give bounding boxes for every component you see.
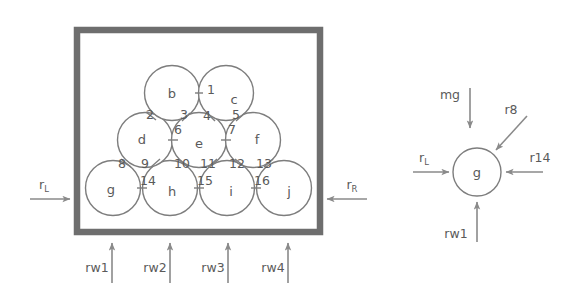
force-label-rw3: rw3 bbox=[201, 260, 224, 275]
force-label-rw1-fbd: rw1 bbox=[444, 226, 467, 241]
contact-number-8: 8 bbox=[118, 156, 126, 171]
contact-number-9: 9 bbox=[141, 156, 149, 171]
contact-number-15: 15 bbox=[197, 173, 213, 188]
disk-label-f: f bbox=[255, 132, 260, 147]
disk-label-c: c bbox=[230, 92, 237, 107]
disk-label-d: d bbox=[138, 132, 146, 147]
force-label-mg: mg bbox=[440, 87, 460, 102]
contact-number-10: 10 bbox=[174, 156, 190, 171]
contact-number-1: 1 bbox=[207, 82, 215, 97]
contact-number-12: 12 bbox=[229, 156, 245, 171]
force-label-rw2: rw2 bbox=[143, 260, 166, 275]
disk-label-h: h bbox=[168, 184, 176, 199]
disk-label-g: g bbox=[107, 182, 115, 197]
disk-label-j: j bbox=[286, 184, 291, 199]
contact-number-6: 6 bbox=[174, 122, 182, 137]
force-label-rR: rR bbox=[346, 177, 357, 194]
contact-number-5: 5 bbox=[232, 107, 240, 122]
contact-number-3: 3 bbox=[180, 107, 188, 122]
contact-number-14: 14 bbox=[140, 173, 156, 188]
force-label-rw1: rw1 bbox=[85, 260, 108, 275]
disk-label-i: i bbox=[229, 184, 233, 199]
floor-reaction-arrows: rw1 rw2 rw3 rw4 bbox=[85, 243, 288, 283]
force-label-rL-fbd: rL bbox=[419, 150, 429, 167]
force-arrow-rL-left-diagram: rL bbox=[30, 177, 70, 199]
force-label-r14: r14 bbox=[529, 150, 550, 165]
disk-label-b: b bbox=[168, 86, 176, 101]
contact-number-16: 16 bbox=[254, 173, 270, 188]
fbd-disk-label-g: g bbox=[473, 165, 481, 180]
force-arrow-rR-left-diagram: rR bbox=[327, 177, 367, 199]
contact-number-7: 7 bbox=[228, 122, 236, 137]
force-label-r8: r8 bbox=[504, 102, 517, 117]
mechanics-figure: b c d e f g h i j 1 2 3 4 5 6 7 8 9 10 1… bbox=[0, 0, 582, 298]
contact-number-13: 13 bbox=[256, 156, 272, 171]
contact-number-4: 4 bbox=[203, 108, 211, 123]
contact-number-2: 2 bbox=[146, 107, 154, 122]
free-body-diagram: g mg r8 rL r14 rw1 bbox=[413, 87, 551, 242]
force-label-rL: rL bbox=[39, 177, 49, 194]
force-label-rw4: rw4 bbox=[261, 260, 284, 275]
disk-label-e: e bbox=[195, 136, 203, 151]
contact-number-11: 11 bbox=[200, 156, 216, 171]
